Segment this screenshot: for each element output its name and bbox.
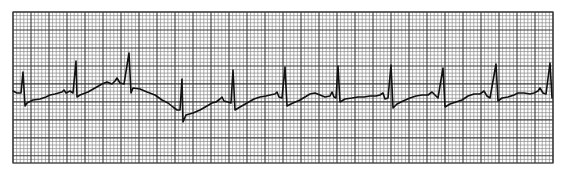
ecg-strip-figure: ECG rhythm strip — [0, 0, 566, 175]
ecg-chart — [0, 0, 566, 175]
